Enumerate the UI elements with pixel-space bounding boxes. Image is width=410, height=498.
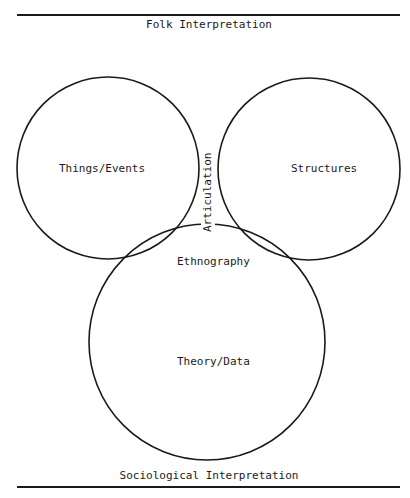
intersection-label-articulation: Articulation <box>202 153 214 232</box>
bottom-caption: Sociological Interpretation <box>120 470 299 482</box>
intersection-label-ethnography: Ethnography <box>177 256 250 268</box>
bottom-rule <box>17 486 400 488</box>
set-label-structures: Structures <box>291 163 357 175</box>
set-label-things-events: Things/Events <box>59 163 145 175</box>
set-label-theory-data: Theory/Data <box>177 356 250 368</box>
venn-diagram <box>0 0 410 498</box>
